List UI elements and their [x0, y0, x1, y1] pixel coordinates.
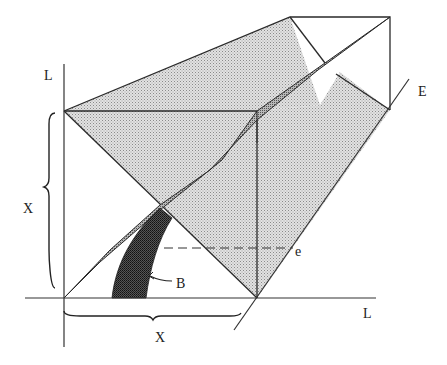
horizontal-brace — [64, 311, 241, 320]
label-horizontal-axis-l: L — [363, 306, 372, 321]
projection-diagram: L L E X X B e — [0, 0, 447, 365]
label-region-b: B — [176, 276, 185, 291]
label-vertical-x: X — [23, 201, 33, 216]
vertical-brace — [44, 113, 55, 288]
label-e-axis: E — [418, 84, 427, 99]
label-horizontal-x: X — [155, 330, 165, 345]
label-point-e: e — [295, 244, 301, 259]
label-vertical-axis-l: L — [44, 68, 53, 83]
